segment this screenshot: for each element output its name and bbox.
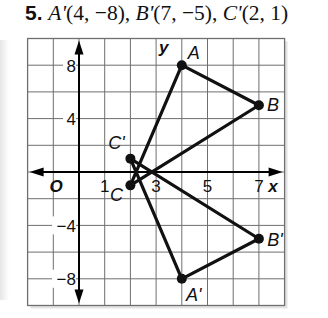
vertex-b (254, 100, 264, 110)
y-axis-label: y (158, 38, 170, 57)
x-axis-label: x (267, 177, 279, 196)
x-tick-label: 1 (100, 177, 109, 196)
y-tick-label: 4 (67, 110, 76, 129)
vertex-label-a-prime: A' (185, 285, 202, 305)
vertex-label-b: B (267, 95, 279, 115)
vertex-label-c-prime: C' (108, 133, 125, 153)
y-tick-label: −8 (57, 270, 76, 289)
vertex-label-a: A (187, 43, 200, 63)
origin-label: O (49, 177, 62, 196)
y-tick-label: 8 (67, 57, 76, 76)
vertex-b-prime (254, 234, 264, 244)
vertex-c-prime (125, 154, 135, 164)
vertex-a (177, 60, 187, 70)
x-tick-label: 3 (151, 177, 160, 196)
vertex-label-c: C (110, 185, 124, 205)
x-tick-label: 5 (203, 177, 212, 196)
x-tick-label: 7 (254, 177, 263, 196)
vertex-c (125, 180, 135, 190)
vertex-label-b-prime: B' (267, 230, 283, 250)
y-tick-label: −4 (57, 217, 76, 236)
coordinate-graph: 84−4−81357OxyABCA'B'C' (0, 0, 328, 318)
vertex-a-prime (177, 274, 187, 284)
